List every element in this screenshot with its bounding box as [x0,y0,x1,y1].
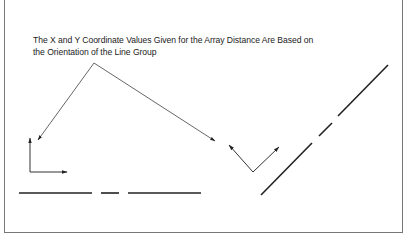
diagonal-line-group [261,65,388,195]
rotated-x-axis-arrow-icon [253,147,279,172]
line-segment [338,65,388,116]
rotated-y-axis-arrow-icon [229,145,253,172]
axis-indicator-rotated [229,145,279,172]
line-segment [261,143,312,195]
leader-line-right [94,63,215,141]
diagram-canvas [0,0,410,240]
leader-line-left [38,63,94,140]
axis-indicator-horizontal [30,138,67,172]
line-segment [319,123,332,136]
leader-lines [38,63,215,141]
